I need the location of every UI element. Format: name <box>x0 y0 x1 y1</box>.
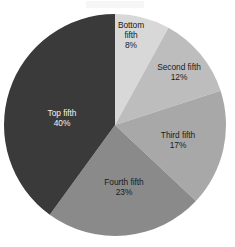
pie-slice-name-text: Bottom <box>118 20 144 30</box>
pie-chart-container: Bottomfifth8%Second fifth12%Third fifth1… <box>0 0 235 247</box>
pie-slice-value-text: 40% <box>54 118 71 128</box>
pie-slice-name-text: fifth <box>124 30 138 40</box>
pie-slice-name-text: Fourth fifth <box>104 177 144 187</box>
pie-slice-value-text: 17% <box>170 140 187 150</box>
pie-slice-name-text: Second fifth <box>157 62 201 72</box>
pie-slice-value-text: 23% <box>116 187 133 197</box>
pie-slice-value-text: 12% <box>171 72 188 82</box>
pie-slice-value-text: 8% <box>125 40 138 50</box>
pie-slice-name-text: Top fifth <box>48 108 77 118</box>
pie-chart-svg: Bottomfifth8%Second fifth12%Third fifth1… <box>0 0 235 247</box>
pie-slice-name-text: Third fifth <box>161 130 196 140</box>
pie-slices-group <box>4 14 226 236</box>
